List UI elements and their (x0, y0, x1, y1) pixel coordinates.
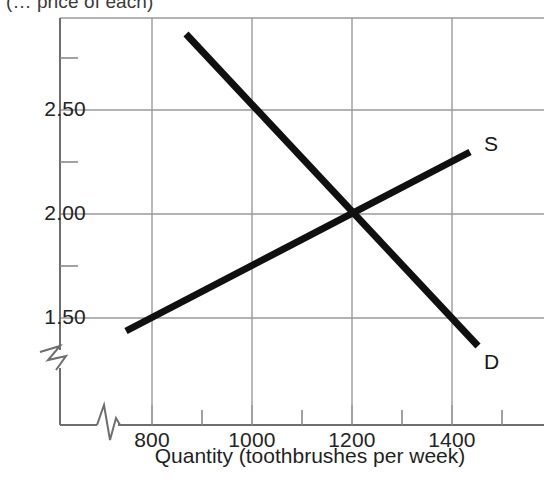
y-axis-minor-ticks (60, 58, 78, 266)
chart-canvas (0, 0, 544, 481)
supply-curve-label: S (484, 132, 498, 156)
grid-lines (60, 18, 544, 405)
x-axis-ticks (152, 405, 502, 425)
demand-curve (186, 34, 478, 346)
y-tick-label-150: 1.50 (0, 305, 86, 329)
y-tick-label-200: 2.00 (0, 201, 86, 225)
supply-demand-chart: (… price of each) (0, 0, 544, 481)
demand-curve-label: D (484, 350, 499, 374)
supply-curve (126, 152, 470, 331)
x-axis-caption: Quantity (toothbrushes per week) (120, 444, 500, 468)
y-tick-label-250: 2.50 (0, 97, 86, 121)
